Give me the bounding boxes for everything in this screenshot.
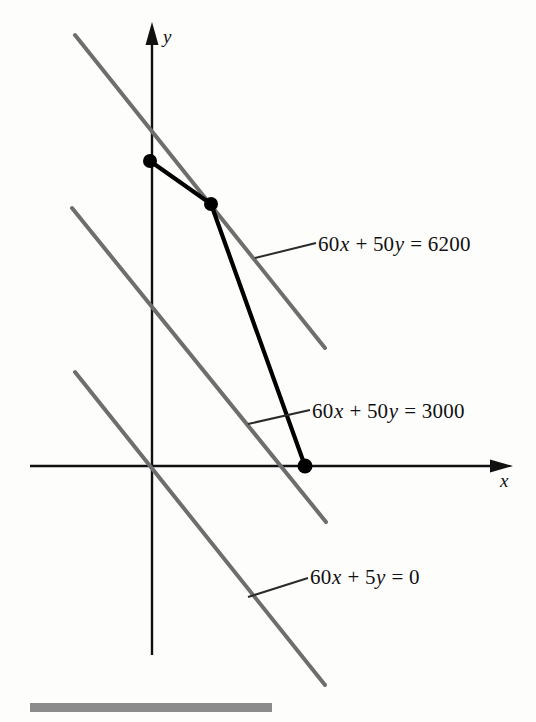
equation-0-var-y: y (376, 565, 387, 589)
equation-3000-var-x: x (333, 399, 344, 423)
equation-6200-equals: = (410, 232, 422, 256)
y-axis-label: y (163, 26, 171, 48)
equation-3000-rhs: 3000 (422, 399, 465, 423)
equation-3000-coef-y: 50 (367, 399, 388, 423)
leader-line-3000 (248, 410, 310, 424)
equation-0-plus: + (347, 565, 359, 589)
feasible-boundary-path (150, 161, 305, 466)
equation-3000-plus: + (349, 399, 361, 423)
equation-0-coef-y: 5 (365, 565, 376, 589)
leader-line-6200 (255, 243, 316, 258)
graph-canvas (0, 0, 536, 722)
objective-line-6200 (75, 35, 325, 348)
equation-6200-plus: + (355, 232, 367, 256)
equation-0-var-x: x (331, 565, 342, 589)
x-axis (30, 460, 513, 473)
bottom-rule-bar (30, 703, 272, 712)
equation-6200-var-y: y (394, 232, 405, 256)
equation-label-0: 60x + 5y = 0 (310, 565, 420, 590)
vertex-dot-a (143, 154, 157, 168)
x-axis-label: x (500, 470, 508, 492)
equation-6200-rhs: 6200 (428, 232, 471, 256)
equation-0-equals: = (392, 565, 404, 589)
equation-3000-equals: = (404, 399, 416, 423)
equation-0-rhs: 0 (409, 565, 420, 589)
vertex-dot-c (298, 459, 313, 474)
equation-label-6200: 60x + 50y = 6200 (318, 232, 471, 257)
leader-line-0 (248, 578, 308, 597)
equation-label-3000: 60x + 50y = 3000 (312, 399, 465, 424)
equation-6200-coef-x: 60 (318, 232, 339, 256)
vertex-dot-b (204, 197, 218, 211)
equation-3000-var-y: y (388, 399, 399, 423)
equation-3000-coef-x: 60 (312, 399, 333, 423)
equation-0-coef-x: 60 (310, 565, 331, 589)
y-axis (146, 22, 159, 655)
linear-programming-figure: y x 60x + 50y = 6200 60x + 50y = 3000 60… (0, 0, 536, 722)
objective-line-3000 (72, 208, 326, 522)
equation-6200-coef-y: 50 (373, 232, 394, 256)
equation-6200-var-x: x (339, 232, 350, 256)
